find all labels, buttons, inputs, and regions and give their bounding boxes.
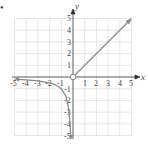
y-axis-label: y (74, 1, 79, 11)
svg-text:2: 2 (94, 79, 98, 88)
svg-text:4: 4 (67, 26, 71, 35)
svg-text:5: 5 (129, 79, 133, 88)
svg-text:5: 5 (67, 14, 71, 23)
svg-text:3: 3 (106, 79, 110, 88)
curve-right-branch (75, 21, 129, 75)
svg-text:-5: -5 (10, 79, 17, 88)
x-axis-label: x (140, 72, 145, 82)
svg-text:-1: -1 (64, 85, 71, 94)
open-circle-origin (70, 74, 76, 80)
graph: x y -5 -4 -3 -2 -1 1 2 3 4 5 5 4 3 2 1 -… (0, 0, 148, 148)
svg-text:4: 4 (118, 79, 122, 88)
svg-text:1: 1 (83, 79, 87, 88)
svg-text:3: 3 (67, 38, 71, 47)
svg-text:2: 2 (67, 49, 71, 58)
svg-text:1: 1 (67, 61, 71, 70)
